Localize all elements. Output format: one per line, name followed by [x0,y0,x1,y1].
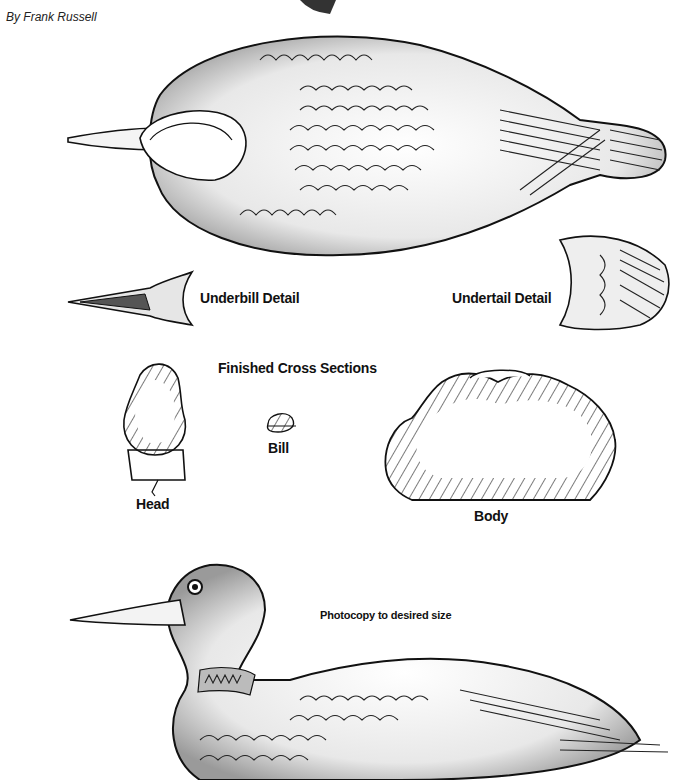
head-label: Head [136,496,169,512]
bill-cross-section [267,414,296,432]
side-view-loon [70,565,668,780]
undertail-label: Undertail Detail [452,290,552,306]
body-cross-section [385,370,615,500]
underbill-detail [68,272,192,325]
underbill-label: Underbill Detail [200,290,299,306]
body-label: Body [474,508,508,524]
head-cross-section [124,364,186,496]
pattern-drawings [0,0,674,780]
top-view-loon [68,37,666,256]
photocopy-note: Photocopy to desired size [320,609,451,621]
undertail-detail [560,236,669,329]
top-edge-fragment [300,0,336,14]
bill-label: Bill [268,440,289,456]
cross-sections-title: Finished Cross Sections [218,360,377,376]
